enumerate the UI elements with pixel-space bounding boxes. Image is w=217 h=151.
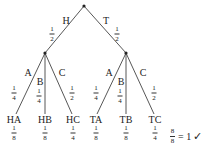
leaf-prob-tc: 14 bbox=[153, 125, 158, 142]
node-t bbox=[124, 51, 127, 54]
leaf-prob-ta: 18 bbox=[94, 125, 99, 142]
edge-label-ha: A bbox=[24, 68, 31, 78]
edge-prob-h: 12 bbox=[50, 26, 55, 43]
edge-prob-hb: 14 bbox=[37, 88, 42, 105]
edge-label-hb: B bbox=[37, 77, 44, 87]
edge-prob-tb: 14 bbox=[118, 88, 123, 105]
edge-label-ta: A bbox=[105, 68, 112, 78]
leaf-prob-hc: 14 bbox=[71, 125, 76, 142]
checkmark-icon: ✓ bbox=[193, 130, 202, 143]
edge-prob-ha: 14 bbox=[12, 85, 17, 102]
edge-prob-ta: 14 bbox=[94, 85, 99, 102]
total-fraction: 88 bbox=[170, 128, 175, 145]
edge-prob-hc: 12 bbox=[70, 85, 75, 102]
leaf-prob-tb: 18 bbox=[124, 125, 129, 142]
edge-label-tb: B bbox=[118, 77, 125, 87]
edge-label-h: H bbox=[62, 16, 69, 26]
node-h bbox=[43, 51, 46, 54]
edge-label-tc: C bbox=[140, 68, 147, 78]
edge-prob-tc: 12 bbox=[152, 85, 157, 102]
leaf-prob-ha: 18 bbox=[12, 125, 17, 142]
root-node bbox=[82, 4, 85, 7]
edge-label-hc: C bbox=[59, 68, 66, 78]
leaf-prob-hb: 18 bbox=[43, 125, 48, 142]
edge-label-t: T bbox=[103, 16, 109, 26]
total-sum: 88 = 1 ✓ bbox=[170, 128, 202, 145]
edge-prob-t: 12 bbox=[115, 26, 120, 43]
total-equals: = 1 bbox=[178, 131, 191, 142]
